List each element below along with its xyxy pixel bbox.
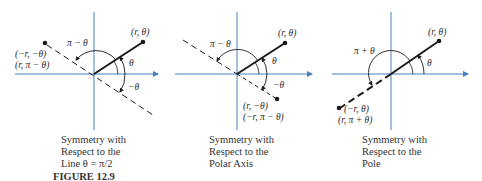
caption-line-1: Symmetry with [209,134,275,145]
caption-line-3: Pole [362,158,381,169]
label-reflected-2: (−r, π − θ) [243,112,284,123]
point-reflected [337,106,342,111]
panel-polar-axis-symmetry: (r, θ) θ −θ π − θ (r, −θ) (−r, π − θ) Sy… [175,12,312,169]
ray-r-theta [94,42,143,74]
label-point: (r, θ) [278,28,296,39]
point-reflected [275,97,280,102]
arc-neg-theta [120,74,125,92]
arc-theta-outer [418,55,424,74]
ray-r-theta [391,41,439,74]
arc-theta [409,62,413,74]
label-theta: θ [272,56,277,66]
caption-line-2: Respect to the [362,146,422,157]
label-reflected-2: (r, π − θ) [15,60,49,71]
label-theta: θ [427,58,432,68]
caption-line-2: Respect to the [61,146,121,157]
caption-line-2: Respect to the [209,146,269,157]
figure-label: FIGURE 12.9 [53,171,115,181]
panel-line-symmetry: (r, θ) θ −θ π − θ (−r, −θ) (r, π − θ) Sy… [15,12,158,181]
arc-theta-outer [262,58,267,74]
point-r-theta [141,40,146,45]
caption-line-1: Symmetry with [61,134,127,145]
label-neg-theta: −θ [273,80,284,90]
arc-neg-theta [262,74,267,90]
ray-r-neg-theta [237,74,277,99]
label-neg-theta: −θ [128,82,139,92]
label-supplement: π − θ [67,38,88,48]
point-r-theta [437,39,442,44]
dashed-reflection-line [47,45,153,115]
label-point: (r, θ) [428,27,446,38]
point-r-theta [283,41,288,46]
arc-theta [114,61,118,74]
label-point: (r, θ) [131,27,149,38]
arc-theta [255,62,259,74]
caption-line-1: Symmetry with [362,134,428,145]
point-reflected [43,41,48,46]
label-reflected-2: (r, π + θ) [338,115,372,126]
symmetry-figure: (r, θ) θ −θ π − θ (−r, −θ) (r, π − θ) Sy… [0,0,482,181]
label-theta: θ [129,58,134,68]
label-sum: π + θ [354,46,375,56]
label-reflected-1: (−r, −θ) [15,49,46,60]
arc-pi-plus-theta [369,51,410,85]
dashed-reflection-line [340,74,391,108]
arc-theta-outer [120,57,125,74]
caption-line-3: Line θ = π/2 [61,158,113,169]
label-reflected-1: (−r, θ) [344,104,369,115]
caption-line-3: Polar Axis [209,158,253,169]
arc-pi-minus-theta [76,51,116,60]
panel-pole-symmetry: (r, θ) θ π + θ (−r, θ) (r, π + θ) Symmet… [332,12,468,169]
ray-r-theta [237,43,285,74]
label-supplement: π − θ [210,39,231,49]
label-reflected-1: (r, −θ) [243,101,268,112]
